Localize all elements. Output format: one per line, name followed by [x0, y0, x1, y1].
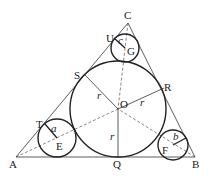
label-s: S	[74, 69, 80, 81]
label-g: G	[127, 45, 135, 57]
label-f: F	[162, 144, 168, 156]
label-c: C	[124, 9, 131, 21]
label-r-os: r	[97, 89, 102, 101]
dashed-line-a-o	[16, 109, 118, 157]
label-c-radius: c	[118, 34, 123, 46]
label-b-radius: b	[173, 130, 179, 142]
label-t: T	[36, 118, 43, 130]
geometry-diagram: C A B Q O S R U G T E F r r r c a b	[0, 0, 212, 178]
label-a-radius: a	[51, 122, 57, 134]
label-r-or: r	[140, 96, 145, 108]
label-b: B	[192, 158, 199, 170]
label-r-oq: r	[110, 130, 115, 142]
dashed-line-b-o	[118, 109, 195, 157]
label-o: O	[120, 98, 128, 110]
label-a: A	[9, 158, 17, 170]
label-r: R	[164, 81, 172, 93]
label-u: U	[106, 32, 114, 44]
radius-os	[85, 75, 118, 109]
label-q: Q	[113, 158, 121, 170]
label-e: E	[56, 140, 63, 152]
